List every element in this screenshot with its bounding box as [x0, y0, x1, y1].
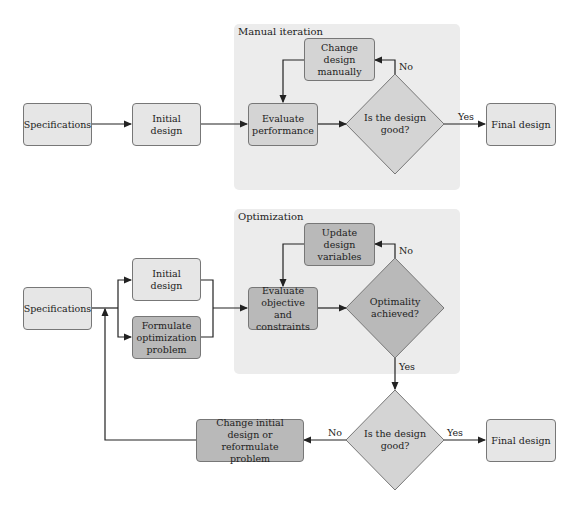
bottom-final-design-box: Final design	[486, 419, 556, 462]
top-no-label: No	[399, 61, 413, 72]
bottom-specifications-box: Specifications	[23, 287, 92, 330]
dec-no-label: No	[328, 427, 342, 438]
bottom-initial-design-box: Initial design	[132, 258, 201, 301]
dec-yes-label: Yes	[447, 427, 463, 438]
change-initial-design-box: Change initial design or reformulate pro…	[196, 419, 304, 462]
update-design-variables-box: Update design variables	[304, 223, 375, 266]
change-design-manually-box: Change design manually	[304, 38, 375, 81]
formulate-optimization-box: Formulate optimization problem	[132, 316, 201, 359]
opt-yes-label: Yes	[399, 361, 415, 372]
top-initial-design-box: Initial design	[132, 103, 201, 146]
evaluate-objective-box: Evaluate objective and constraints	[248, 287, 318, 330]
top-yes-label: Yes	[458, 111, 474, 122]
opt-no-label: No	[399, 245, 413, 256]
bottom-decision-label: Is the design good?	[360, 426, 430, 454]
top-decision-label: Is the design good?	[360, 110, 430, 138]
top-final-design-box: Final design	[486, 103, 556, 146]
optimality-label: Optimality achieved?	[362, 294, 428, 322]
top-specifications-box: Specifications	[23, 103, 92, 146]
evaluate-performance-box: Evaluate performance	[248, 103, 318, 146]
